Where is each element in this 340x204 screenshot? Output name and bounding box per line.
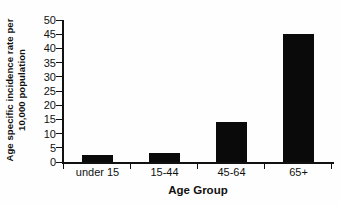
- y-tick-label: 10: [18, 128, 56, 140]
- bar-15-44: [149, 153, 180, 162]
- y-axis-tick: [56, 20, 62, 21]
- y-axis-title-line1: Age specific incidence rate per: [4, 0, 16, 180]
- y-axis-tick: [56, 105, 62, 106]
- y-axis-tick: [56, 133, 62, 134]
- x-axis-line: [62, 162, 334, 164]
- y-axis-tick: [56, 91, 62, 92]
- y-tick-label: 20: [18, 99, 56, 111]
- y-tick-label: 45: [18, 28, 56, 40]
- y-axis-tick: [56, 48, 62, 49]
- x-category-label: 45-64: [198, 166, 265, 178]
- x-axis-title: Age Group: [64, 184, 332, 196]
- y-tick-label: 5: [18, 142, 56, 154]
- bar-45-64: [216, 122, 247, 162]
- y-axis-line: [62, 20, 64, 164]
- bar-65+: [283, 34, 314, 162]
- y-axis-tick: [56, 62, 62, 63]
- x-category-label: 65+: [265, 166, 332, 178]
- y-axis-tick: [56, 147, 62, 148]
- y-axis-tick: [56, 34, 62, 35]
- y-tick-label: 25: [18, 85, 56, 97]
- y-tick-label: 30: [18, 71, 56, 83]
- y-tick-label: 40: [18, 42, 56, 54]
- y-tick-label: 0: [18, 156, 56, 168]
- y-tick-label: 35: [18, 57, 56, 69]
- y-axis-tick: [56, 162, 62, 163]
- y-axis-tick: [56, 119, 62, 120]
- x-category-label: 15-44: [131, 166, 198, 178]
- y-tick-label: 15: [18, 113, 56, 125]
- bar-chart-figure: Age specific incidence rate per 10,000 p…: [0, 0, 340, 204]
- bar-under-15: [82, 155, 113, 162]
- y-axis-tick: [56, 76, 62, 77]
- x-category-label: under 15: [64, 166, 131, 178]
- y-tick-label: 50: [18, 14, 56, 26]
